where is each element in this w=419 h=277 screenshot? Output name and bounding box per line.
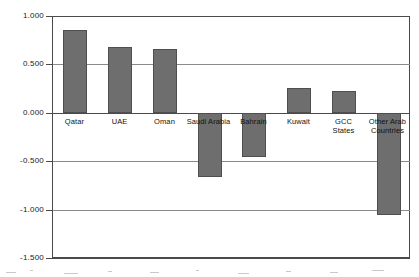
bar: [63, 30, 87, 113]
scan-artifact-strip: [0, 263, 419, 277]
bar: [287, 88, 311, 113]
scan-speck: [238, 273, 249, 274]
bar: [332, 91, 356, 113]
category-label: Saudi Arabia: [186, 117, 231, 127]
category-label: Bahrain: [231, 117, 276, 127]
scan-speck: [196, 270, 199, 271]
scan-speck: [286, 271, 291, 272]
bar: [108, 47, 132, 113]
y-axis-line: [52, 16, 53, 259]
gridline-0.000: [52, 113, 410, 114]
bar-chart-figure: 1.0000.5000.000-0.500-1.000-1.500 QatarU…: [0, 0, 419, 277]
gridline--0.500: [52, 161, 410, 162]
category-label: UAE: [97, 117, 142, 127]
scan-speck: [150, 272, 159, 273]
bar: [153, 49, 177, 113]
scan-speck: [64, 273, 78, 274]
gridline--1.000: [52, 210, 410, 211]
y-axis-label: 1.000: [0, 12, 44, 20]
category-label: Qatar: [52, 117, 97, 127]
category-label: GCC States: [321, 117, 366, 136]
gridline-1.000: [52, 16, 410, 17]
scan-speck: [108, 271, 112, 272]
category-label: Kuwait: [276, 117, 321, 127]
scan-speck: [6, 272, 16, 273]
scan-speck: [330, 272, 338, 273]
gridline-0.500: [52, 64, 410, 65]
plot-area-frame: [52, 16, 410, 258]
gridline--1.500: [52, 258, 410, 259]
scan-speck: [30, 270, 33, 271]
y-axis-label: 0.000: [0, 109, 44, 117]
category-label: Oman: [142, 117, 187, 127]
category-label: Other Arab Countries: [365, 117, 410, 136]
y-axis-label: -1.000: [0, 206, 44, 214]
y-axis-label: 0.500: [0, 60, 44, 68]
y-axis-label: -0.500: [0, 157, 44, 165]
y-axis-label: -1.500: [0, 254, 44, 262]
scan-speck: [372, 270, 384, 271]
